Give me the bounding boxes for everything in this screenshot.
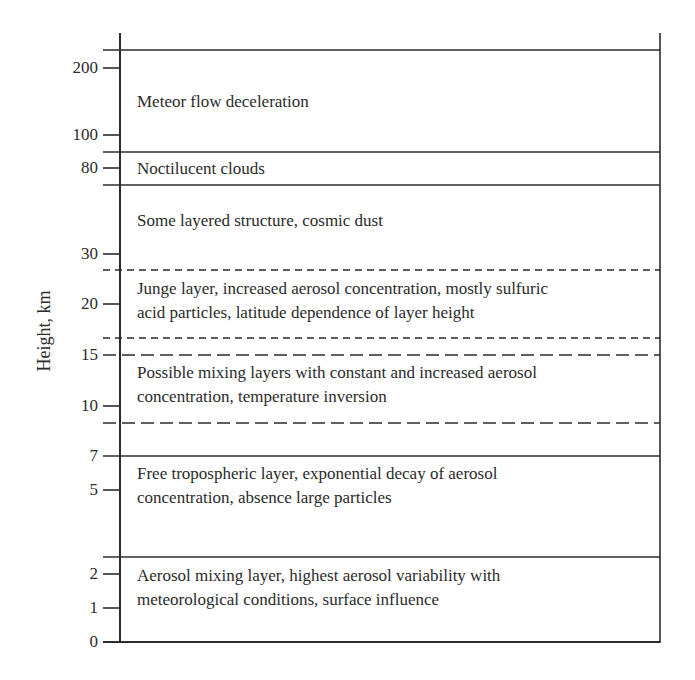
tick-label-15: 15 xyxy=(58,346,98,363)
layer-meteor: Meteor flow deceleration xyxy=(137,90,657,114)
layer-junge-line1: Junge layer, increased aerosol concentra… xyxy=(137,277,657,301)
tick-label-2: 2 xyxy=(58,565,98,582)
tick-label-10: 10 xyxy=(58,397,98,414)
layer-free-tropospheric: Free tropospheric layer, exponential dec… xyxy=(137,462,657,510)
tick-label-30: 30 xyxy=(58,245,98,262)
tick-label-200: 200 xyxy=(58,59,98,76)
layer-layered-structure: Some layered structure, cosmic dust xyxy=(137,209,657,233)
layer-mixing: Possible mixing layers with constant and… xyxy=(137,361,657,409)
tick-label-80: 80 xyxy=(58,159,98,176)
layer-noctilucent: Noctilucent clouds xyxy=(137,157,657,181)
atmosphere-layer-diagram: 200 100 80 30 20 15 10 7 5 2 1 0 Height,… xyxy=(0,0,695,680)
layer-mixing-line1: Possible mixing layers with constant and… xyxy=(137,361,657,385)
tick-label-1: 1 xyxy=(58,599,98,616)
tick-label-0: 0 xyxy=(58,633,98,650)
layer-free-tropospheric-line1: Free tropospheric layer, exponential dec… xyxy=(137,462,657,486)
layer-aerosol-mixing-line2: meteorological conditions, surface influ… xyxy=(137,588,657,612)
layer-aerosol-mixing-line1: Aerosol mixing layer, highest aerosol va… xyxy=(137,564,657,588)
layer-layered-structure-text: Some layered structure, cosmic dust xyxy=(137,209,657,233)
tick-label-5: 5 xyxy=(58,481,98,498)
y-axis-label: Height, km xyxy=(34,291,55,372)
layer-junge-line2: acid particles, latitude dependence of l… xyxy=(137,301,657,325)
layer-noctilucent-text: Noctilucent clouds xyxy=(137,157,657,181)
tick-label-100: 100 xyxy=(58,126,98,143)
tick-label-20: 20 xyxy=(58,295,98,312)
layer-aerosol-mixing: Aerosol mixing layer, highest aerosol va… xyxy=(137,564,657,612)
layer-meteor-text: Meteor flow deceleration xyxy=(137,90,657,114)
layer-mixing-line2: concentration, temperature inversion xyxy=(137,385,657,409)
tick-label-7: 7 xyxy=(58,447,98,464)
layer-junge: Junge layer, increased aerosol concentra… xyxy=(137,277,657,325)
layer-free-tropospheric-line2: concentration, absence large particles xyxy=(137,486,657,510)
